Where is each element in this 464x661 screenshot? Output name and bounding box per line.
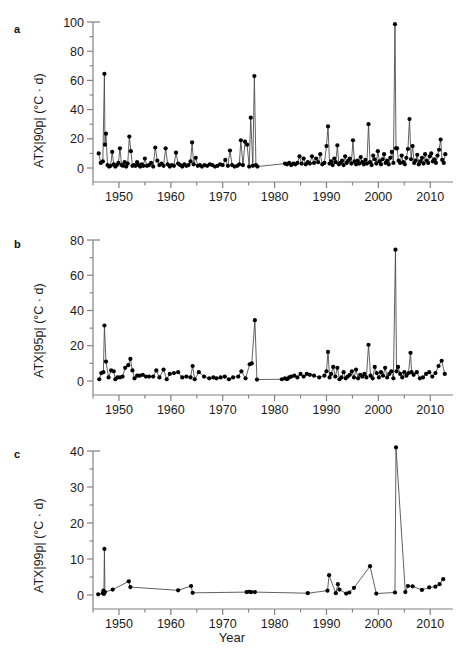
data-point: [255, 377, 259, 381]
data-point: [415, 370, 419, 374]
data-point: [414, 159, 418, 163]
data-point: [371, 153, 375, 157]
data-point: [427, 585, 431, 589]
data-point: [394, 445, 398, 449]
y-tick-label: 20: [70, 132, 84, 146]
data-point: [127, 135, 131, 139]
data-point: [110, 150, 114, 154]
y-tick-label: 80: [70, 45, 84, 59]
data-point: [391, 161, 395, 165]
data-point: [423, 152, 427, 156]
data-point: [411, 144, 415, 148]
data-point: [371, 376, 375, 380]
data-point: [433, 585, 437, 589]
data-point: [193, 377, 197, 381]
data-point: [366, 122, 370, 126]
data-point: [404, 156, 408, 160]
data-point: [437, 582, 441, 586]
x-tick-label: 1970: [209, 617, 237, 631]
data-point: [310, 154, 314, 158]
data-point: [184, 374, 188, 378]
data-point: [434, 161, 438, 165]
data-point: [348, 373, 352, 377]
x-tick-label: 1960: [157, 617, 185, 631]
plot-area-c: 0102030401950196019701980199020002010: [0, 425, 464, 661]
data-point: [308, 373, 312, 377]
data-point: [393, 590, 397, 594]
data-point: [190, 140, 194, 144]
data-point: [231, 375, 235, 379]
data-point: [103, 143, 107, 147]
data-point: [443, 372, 447, 376]
data-point: [382, 152, 386, 156]
data-point: [164, 146, 168, 150]
data-point: [129, 149, 133, 153]
x-tick-label: 1990: [313, 190, 341, 204]
data-point: [111, 588, 115, 592]
panel-label-a: a: [14, 23, 20, 35]
data-point: [440, 359, 444, 363]
data-point: [432, 157, 436, 161]
data-point: [342, 370, 346, 374]
data-point: [101, 159, 105, 163]
data-point: [103, 590, 107, 594]
data-point: [317, 375, 321, 379]
data-point: [396, 365, 400, 369]
data-point: [188, 375, 192, 379]
data-point: [352, 375, 356, 379]
panel-label-c: c: [14, 448, 20, 460]
data-point: [395, 146, 399, 150]
data-point: [429, 151, 433, 155]
data-point: [118, 146, 122, 150]
data-point: [426, 161, 430, 165]
data-point: [327, 573, 331, 577]
data-point: [239, 369, 243, 373]
data-point: [247, 164, 251, 168]
y-tick-label: 0: [77, 589, 84, 603]
x-tick-label: 2000: [364, 190, 392, 204]
data-point: [194, 156, 198, 160]
data-point: [385, 375, 389, 379]
plot-area-a: 0204060801001950196019701980199020002010: [0, 0, 464, 215]
data-point: [250, 361, 254, 365]
data-point: [400, 153, 404, 157]
data-point: [398, 372, 402, 376]
y-tick-label: 60: [70, 269, 84, 283]
data-point: [390, 150, 394, 154]
data-point: [161, 367, 165, 371]
y-tick-label: 40: [70, 304, 84, 318]
data-point: [420, 588, 424, 592]
x-tick-label: 1950: [105, 617, 133, 631]
data-point: [228, 148, 232, 152]
data-point: [350, 369, 354, 373]
data-point: [406, 147, 410, 151]
data-point: [336, 582, 340, 586]
data-point: [302, 156, 306, 160]
data-point: [380, 157, 384, 161]
data-point: [437, 148, 441, 152]
data-point: [383, 366, 387, 370]
data-point: [104, 132, 108, 136]
data-point: [435, 153, 439, 157]
x-tick-label: 1990: [313, 617, 341, 631]
data-point: [388, 156, 392, 160]
panel-label-b: b: [14, 238, 21, 250]
data-point: [157, 375, 161, 379]
data-point: [128, 585, 132, 589]
data-point: [403, 162, 407, 166]
data-point: [127, 579, 131, 583]
data-point: [202, 374, 206, 378]
x-tick-label: 1990: [313, 403, 341, 417]
data-point: [101, 370, 105, 374]
data-point: [147, 374, 151, 378]
data-point: [297, 154, 301, 158]
x-tick-label: 1970: [209, 190, 237, 204]
data-point: [299, 162, 303, 166]
data-point: [97, 151, 101, 155]
data-point: [189, 584, 193, 588]
y-tick-label: 0: [77, 375, 84, 389]
data-point: [252, 74, 256, 78]
data-point: [443, 152, 447, 156]
x-tick-label: 1970: [209, 403, 237, 417]
data-point: [223, 158, 227, 162]
